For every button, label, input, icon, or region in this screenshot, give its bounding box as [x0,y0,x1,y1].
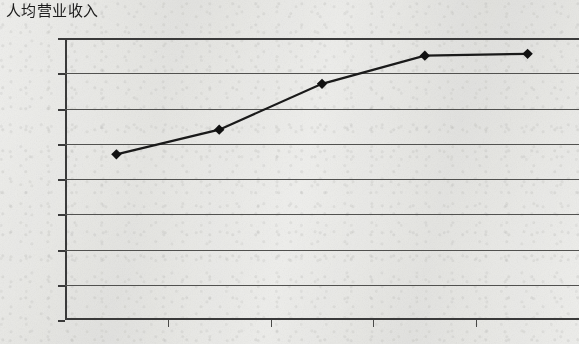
y-axis-tick-mark [58,285,65,287]
y-axis-tick-mark [58,179,65,181]
series-line [116,54,527,154]
y-axis-tick-mark [58,214,65,216]
plot-area: 01020304050607080 20082009201020112012 [65,38,579,320]
data-point-marker [111,149,121,159]
y-axis-tick-mark [58,73,65,75]
data-point-marker [420,50,430,60]
series-markers [111,49,533,160]
y-axis-tick-mark [58,320,65,322]
line-series [65,38,579,320]
chart-title: 人均营业收入 [6,0,98,22]
x-axis-tick-mark [476,320,477,327]
y-axis-tick-mark [58,38,65,40]
x-axis-tick-mark [373,320,374,327]
y-axis-tick-mark [58,144,65,146]
y-axis-tick-mark [58,250,65,252]
y-axis-tick-mark [58,109,65,111]
chart-screenshot: 人均营业收入 01020304050607080 200820092010201… [0,0,579,344]
data-point-marker [214,124,224,134]
x-axis-tick-mark [271,320,272,327]
x-axis-tick-mark [168,320,169,327]
data-point-marker [522,49,532,59]
data-point-marker [317,79,327,89]
